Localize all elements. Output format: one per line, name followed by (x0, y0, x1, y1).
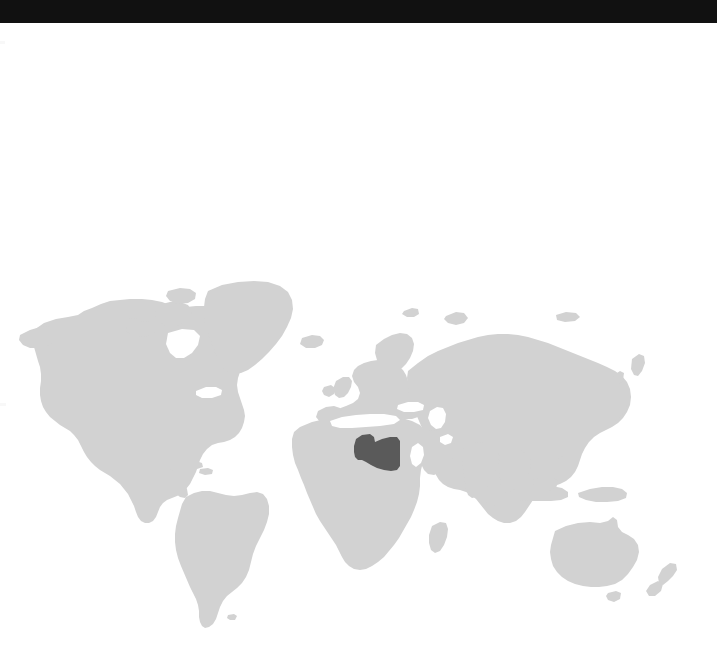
top-black-band (0, 0, 717, 23)
edge-artifact-left-lower (0, 403, 6, 406)
world-map-svg[interactable] (0, 23, 717, 653)
edge-artifact-left (0, 41, 5, 44)
map-page (0, 0, 717, 653)
world-map-container[interactable] (0, 23, 717, 653)
